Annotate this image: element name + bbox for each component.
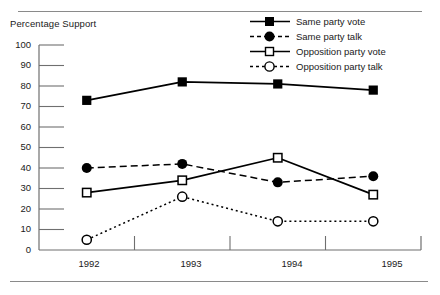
series-same-party-vote — [82, 77, 378, 105]
series-line — [87, 164, 374, 182]
data-point-open-circle — [369, 217, 378, 226]
data-point-open-circle — [273, 217, 282, 226]
plot-area — [0, 0, 440, 295]
data-point-open-square — [274, 154, 282, 162]
data-point-filled-square — [369, 86, 378, 95]
data-point-filled-circle — [273, 177, 283, 187]
data-point-open-circle — [178, 192, 187, 201]
series-line — [87, 158, 374, 195]
data-point-filled-circle — [82, 163, 92, 173]
series-line — [87, 197, 374, 240]
data-point-open-square — [369, 190, 377, 198]
data-point-filled-square — [178, 77, 187, 86]
series-line — [87, 82, 374, 100]
data-point-open-square — [83, 188, 91, 196]
series-same-party-talk — [82, 159, 379, 187]
chart-figure: Percentage Support Same party vote Same … — [0, 0, 440, 295]
data-point-open-square — [178, 176, 186, 184]
data-point-open-circle — [82, 235, 91, 244]
data-point-filled-square — [82, 96, 91, 105]
data-point-filled-circle — [368, 171, 378, 181]
data-point-filled-circle — [177, 159, 187, 169]
data-point-filled-square — [273, 79, 282, 88]
series-opposition-party-vote — [83, 154, 378, 199]
